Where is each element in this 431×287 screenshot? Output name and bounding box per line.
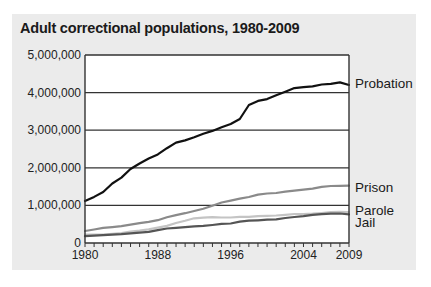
x-tick-label: 1988 (144, 248, 171, 262)
series-label-probation: Probation (355, 76, 413, 91)
y-tick-label: 2,000,000 (28, 161, 82, 175)
y-tick-label: 5,000,000 (28, 48, 82, 62)
series-label-jail: Jail (355, 215, 375, 230)
x-tick-label: 1980 (72, 248, 99, 262)
y-tick-label: 4,000,000 (28, 86, 82, 100)
x-tick-label: 2004 (290, 248, 317, 262)
y-tick-label: 3,000,000 (28, 123, 82, 137)
x-tick-label: 1996 (217, 248, 244, 262)
y-tick-label: 1,000,000 (28, 198, 82, 212)
series-label-prison: Prison (355, 180, 393, 195)
line-chart: 01,000,0002,000,0003,000,0004,000,0005,0… (0, 0, 431, 287)
x-tick-label: 2009 (336, 248, 363, 262)
